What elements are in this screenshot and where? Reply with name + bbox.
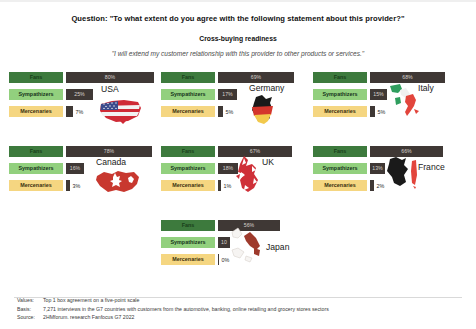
country-name-usa: USA [101, 84, 119, 94]
category-label-fans: Fans [9, 146, 63, 157]
japan-flag-icon [226, 226, 270, 270]
value-label-sympathizers: 17% [218, 89, 237, 100]
footnote-basis: Basis: 7,271 interviews in the G7 countr… [17, 305, 329, 314]
category-label-fans: Fans [313, 146, 367, 157]
chart-subtitle: Cross-buying readiness [0, 35, 476, 42]
top-rule [0, 0, 476, 2]
country-panels-grid: Fans 80% Sympathizers 25% [0, 68, 476, 286]
canada-flag-icon [94, 168, 142, 202]
usa-flag-icon [98, 96, 144, 130]
country-panel-usa: Fans 80% Sympathizers 25% [6, 68, 158, 138]
category-label-fans: Fans [161, 146, 215, 157]
country-panel-italy: Fans 68% Sympathizers 15% [310, 68, 462, 138]
value-bar-mercenaries [218, 254, 219, 265]
country-panel-canada: Fans 78% Sympathizers 16% [6, 142, 158, 212]
italy-flag-icon [386, 82, 426, 122]
category-label-fans: Fans [161, 72, 215, 83]
country-panel-france: Fans 66% Sympathizers 13% [310, 142, 462, 212]
bar-row-sympathizers: Sympathizers 17% [161, 89, 307, 100]
value-bar-fans: 69% [218, 72, 294, 83]
value-bar-mercenaries [370, 106, 375, 117]
question-title: Question: "To what extent do you agree w… [0, 14, 476, 23]
category-label-mercenaries: Mercenaries [161, 254, 215, 265]
category-label-sympathizers: Sympathizers [161, 163, 215, 174]
bar-row-fans: Fans 69% [161, 72, 307, 83]
value-label-fans: 80% [66, 72, 154, 83]
value-bar-wrap-fans: 78% [66, 146, 155, 157]
germany-flag-icon [246, 94, 280, 130]
value-label-mercenaries: 7% [76, 109, 84, 115]
bar-row-fans: Fans 78% [9, 146, 155, 157]
panel-row: Fans 56% Sympathizers 10 [6, 216, 470, 286]
uk-flag-icon [232, 154, 268, 198]
value-bar-sympathizers: 16% [66, 163, 84, 174]
category-label-fans: Fans [9, 72, 63, 83]
footnote-values: Values: Top 1 box agreement on a five-po… [17, 296, 329, 305]
france-flag-icon [382, 155, 422, 197]
category-label-sympathizers: Sympathizers [313, 163, 367, 174]
value-label-mercenaries: 3% [73, 183, 81, 189]
category-label-sympathizers: Sympathizers [161, 237, 215, 248]
value-label-sympathizers: 25% [66, 89, 93, 100]
category-label-mercenaries: Mercenaries [9, 106, 63, 117]
category-label-sympathizers: Sympathizers [161, 89, 215, 100]
value-label-sympathizers: 15% [370, 89, 387, 100]
value-label-sympathizers: 16% [66, 163, 84, 174]
value-bar-mercenaries [66, 106, 73, 117]
footnote-source-label: Source: [17, 313, 43, 322]
value-label-mercenaries: 1% [224, 183, 232, 189]
bar-row-fans: Fans 80% [9, 72, 155, 83]
category-label-fans: Fans [313, 72, 367, 83]
footnote-source-text: 2HMforum. research Fanfocus G7 2022 [43, 313, 134, 322]
value-bar-sympathizers: 17% [218, 89, 237, 100]
value-label-fans: 69% [218, 72, 294, 83]
category-label-sympathizers: Sympathizers [9, 163, 63, 174]
category-label-mercenaries: Mercenaries [313, 180, 367, 191]
value-bar-mercenaries [218, 180, 221, 191]
category-label-sympathizers: Sympathizers [313, 89, 367, 100]
statement-quote: "I will extend my customer relationship … [0, 50, 476, 57]
country-panel-uk: Fans 67% Sympathizers 18% [158, 142, 310, 212]
country-panel-japan: Fans 56% Sympathizers 10 [158, 216, 310, 286]
value-label-fans: 78% [66, 146, 152, 157]
value-bar-fans: 80% [66, 72, 154, 83]
category-label-mercenaries: Mercenaries [161, 180, 215, 191]
footer-notes: Values: Top 1 box agreement on a five-po… [17, 296, 329, 322]
footnote-source: Source: 2HMforum. research Fanfocus G7 2… [17, 313, 329, 322]
value-bar-fans: 78% [66, 146, 152, 157]
country-name-canada: Canada [96, 157, 126, 167]
panel-row: Fans 80% Sympathizers 25% [6, 68, 470, 138]
footnote-values-text: Top 1 box agreement on a five-point scal… [43, 296, 139, 305]
category-label-mercenaries: Mercenaries [313, 106, 367, 117]
footnote-values-label: Values: [17, 296, 43, 305]
value-bar-wrap-fans: 80% [66, 72, 155, 83]
value-bar-mercenaries [370, 180, 374, 191]
category-label-sympathizers: Sympathizers [9, 89, 63, 100]
slide: Question: "To what extent do you agree w… [0, 0, 476, 329]
category-label-mercenaries: Mercenaries [161, 106, 215, 117]
value-label-mercenaries: 5% [378, 109, 386, 115]
country-name-france: France [418, 162, 445, 172]
country-panel-germany: Fans 69% Sympathizers 17% [158, 68, 310, 138]
category-label-mercenaries: Mercenaries [9, 180, 63, 191]
country-name-germany: Germany [249, 83, 284, 93]
category-label-fans: Fans [161, 220, 215, 231]
panel-row: Fans 78% Sympathizers 16% [6, 142, 470, 212]
value-label-mercenaries: 5% [226, 109, 234, 115]
value-bar-sympathizers: 15% [370, 89, 387, 100]
footnote-basis-label: Basis: [17, 305, 43, 314]
value-bar-sympathizers: 25% [66, 89, 93, 100]
footnote-basis-text: 7,271 interviews in the G7 countries wit… [43, 305, 329, 314]
value-bar-mercenaries [66, 180, 70, 191]
value-bar-wrap-fans: 69% [218, 72, 307, 83]
value-bar-mercenaries [218, 106, 223, 117]
bar-row-mercenaries: Mercenaries 5% [161, 106, 307, 117]
header: Question: "To what extent do you agree w… [0, 0, 476, 57]
